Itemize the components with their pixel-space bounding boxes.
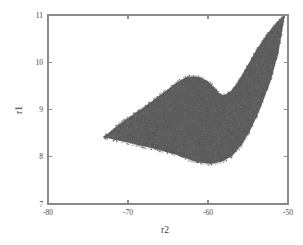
scatter-plot-figure: -80-70-60-50 7891011 r2 r1 xyxy=(0,0,303,245)
y-tick-label: 9 xyxy=(39,105,43,114)
y-axis-title: r1 xyxy=(13,106,24,114)
x-axis-title: r2 xyxy=(161,224,169,235)
y-tick-label: 8 xyxy=(39,152,43,161)
x-tick-label: -80 xyxy=(43,208,53,217)
x-tick-label: -60 xyxy=(203,208,213,217)
y-tick-label: 10 xyxy=(35,58,43,67)
x-tick-label: -70 xyxy=(123,208,133,217)
x-tick-label: -50 xyxy=(283,208,293,217)
y-tick-label: 11 xyxy=(36,11,44,20)
y-tick-label: 7 xyxy=(39,200,43,209)
